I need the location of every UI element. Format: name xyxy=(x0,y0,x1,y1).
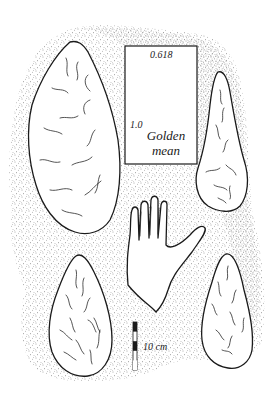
scale-bar-label: 10 cm xyxy=(143,341,167,352)
golden-mean-title-line1: Golden xyxy=(136,128,196,143)
handaxe-illustration xyxy=(0,0,277,398)
golden-mean-title: Golden mean xyxy=(136,128,196,158)
scale-bar xyxy=(133,322,137,370)
golden-mean-title-line2: mean xyxy=(136,143,196,158)
golden-ratio-short-side-label: 0.618 xyxy=(150,49,173,60)
